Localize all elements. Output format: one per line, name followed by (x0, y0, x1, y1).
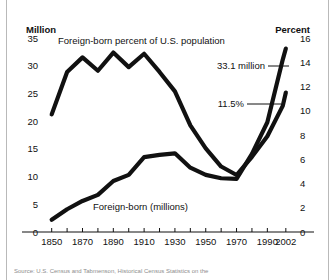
left-axis-tick-25: 25 (27, 88, 38, 99)
right-axis-tick-4: 4 (300, 178, 305, 189)
left-axis-tick-15: 15 (27, 143, 38, 154)
source-note: Source: U.S. Census and Tabmenson, Histo… (14, 268, 324, 275)
series-label-millions: Foreign-born (millions) (93, 201, 188, 212)
line-chart-plot: Million Percent 05101520253035 024681012… (0, 0, 336, 280)
series-label-percent: Foreign-born percent of U.S. population (58, 35, 225, 46)
right-axis-tick-16: 16 (300, 33, 311, 44)
x-axis-tick-label-1970: 1970 (226, 236, 247, 247)
right-axis-tick-labels: 0246810121416 (300, 33, 311, 238)
right-axis-tick-10: 10 (300, 105, 311, 116)
right-axis-tick-8: 8 (300, 130, 305, 141)
right-axis-tick-6: 6 (300, 154, 305, 165)
x-axis-tick-label-1950: 1950 (195, 236, 216, 247)
left-axis-tick-labels: 05101520253035 (27, 33, 38, 238)
left-axis-tick-5: 5 (33, 199, 38, 210)
right-axis-tick-2: 2 (300, 202, 305, 213)
x-axis-tick-label-1850: 1850 (41, 236, 62, 247)
x-axis-tick-label-1890: 1890 (103, 236, 124, 247)
data-series-lines (52, 49, 286, 220)
x-axis-tick-label-1910: 1910 (134, 236, 155, 247)
x-axis-tick-label-2002: 2002 (275, 236, 296, 247)
series-line-millions (52, 49, 286, 220)
left-axis-tick-35: 35 (27, 33, 38, 44)
chart-figure: Million Percent 05101520253035 024681012… (0, 0, 336, 280)
x-axis-tick-label-1930: 1930 (164, 236, 185, 247)
left-axis-tick-10: 10 (27, 171, 38, 182)
x-axis-tick-label-1870: 1870 (72, 236, 93, 247)
right-axis-tick-12: 12 (300, 81, 311, 92)
x-axis: 185018701890191019301950197019902002 (22, 228, 314, 247)
annotation-label-percent: 11.5% (218, 98, 245, 109)
left-axis-tick-30: 30 (27, 60, 38, 71)
annotation-label-millions: 33.1 million (217, 60, 265, 71)
left-axis-tick-20: 20 (27, 116, 38, 127)
right-axis-tick-14: 14 (300, 57, 311, 68)
